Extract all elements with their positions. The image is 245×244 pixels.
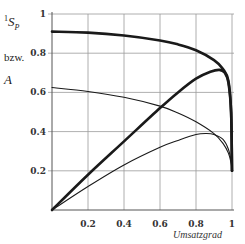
y-axis-label-a: A — [4, 72, 12, 88]
x-tick-label: 0.6 — [152, 219, 168, 229]
y-axis-label-bzw: bzw. — [4, 51, 24, 63]
data-curves — [52, 32, 232, 210]
x-tick-label: 0.2 — [80, 219, 96, 229]
y-axis-label-sp: 1SP — [4, 14, 19, 32]
x-tick-label: 0.4 — [116, 219, 132, 229]
y-tick-label: 0.4 — [30, 127, 46, 137]
y-tick-label: 0.6 — [30, 87, 46, 97]
axes — [52, 12, 234, 210]
x-axis-label: Umsatzgrad — [173, 229, 222, 240]
y-tick-label: 0.8 — [30, 48, 46, 58]
tick-labels: 0.20.40.60.810.20.40.60.81 — [30, 9, 235, 229]
x-tick-label: 0.8 — [188, 219, 204, 229]
curve-2 — [52, 88, 232, 171]
y-tick-label: 1 — [40, 9, 46, 19]
x-tick-label: 1 — [229, 219, 235, 229]
curve-3 — [52, 134, 232, 210]
y-tick-label: 0.2 — [30, 166, 46, 176]
chart-plot: 0.20.40.60.810.20.40.60.81 — [0, 0, 245, 244]
grid-lines — [48, 14, 234, 210]
